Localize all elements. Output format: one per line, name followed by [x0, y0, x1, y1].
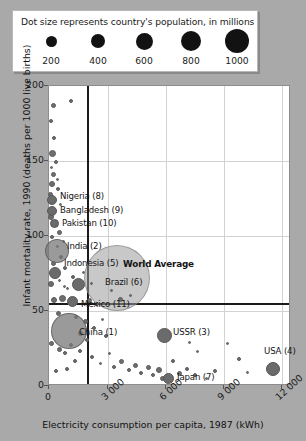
data-dot-other-13: [57, 230, 62, 235]
data-dot-other-43: [112, 365, 116, 369]
y-tick-mark-100: [44, 235, 48, 236]
data-dot-other-4: [54, 160, 58, 164]
gridline-y-50: [49, 311, 289, 312]
data-dot-other-72: [63, 285, 66, 288]
gridline-x-9000: [224, 86, 225, 384]
data-dot-other-50: [156, 367, 162, 373]
data-dot-other-6: [51, 172, 56, 177]
data-dot-other-61: [196, 350, 199, 353]
gridline-y-100: [49, 236, 289, 237]
data-dot-other-7: [56, 178, 59, 181]
y-tick-mark-150: [44, 160, 48, 161]
data-dot-other-39: [78, 349, 82, 353]
y-tick-mark-50: [44, 310, 48, 311]
point-label-brazil: Brazil (6): [105, 277, 142, 287]
data-dot-mexico: [67, 296, 78, 307]
legend-title: Dot size represents country's population…: [21, 16, 254, 27]
world-average-label: World Average: [123, 259, 194, 269]
legend-value-200: 200: [27, 55, 75, 66]
data-dot-other-20: [66, 287, 69, 290]
data-dot-other-46: [133, 363, 138, 368]
legend-value-600: 600: [120, 55, 168, 66]
y-tick-mark-200: [44, 85, 48, 86]
data-dot-other-27: [51, 297, 57, 303]
size-legend: Dot size represents country's population…: [12, 10, 258, 72]
legend-value-1000: 1000: [213, 55, 261, 66]
data-dot-other-67: [54, 369, 58, 373]
data-dot-other-37: [63, 351, 67, 355]
x-tick-mark-12000: [281, 385, 282, 389]
data-dot-other-42: [108, 352, 111, 355]
point-label-bangladesh: Bangladesh (9): [60, 205, 123, 215]
data-dot-other-26: [59, 295, 66, 302]
x-tick-mark-6000: [165, 385, 166, 389]
point-label-india: India (2): [67, 241, 102, 251]
data-dot-other-69: [69, 99, 73, 103]
data-dot-other-1: [49, 119, 53, 123]
data-dot-other-64: [85, 338, 89, 342]
gridline-x-3000: [108, 86, 109, 384]
data-dot-other-45: [127, 368, 131, 372]
data-dot-other-40: [90, 355, 94, 359]
data-dot-other-66: [65, 367, 69, 371]
legend-dot-800: [181, 31, 201, 51]
legend-item-200: 200: [27, 29, 75, 47]
plot-area: China (1)India (2)USSR (3)USA (4)Indones…: [48, 85, 290, 385]
chart-root: Dot size represents country's population…: [0, 0, 306, 441]
legend-item-1000: 1000: [213, 29, 261, 53]
x-tick-mark-3000: [107, 385, 108, 389]
legend-dot-400: [91, 34, 105, 48]
legend-value-400: 400: [74, 55, 122, 66]
data-dot-other-48: [146, 365, 151, 370]
point-label-usa: USA (4): [264, 346, 296, 356]
data-dot-other-2: [52, 136, 56, 140]
data-dot-nigeria: [47, 195, 57, 205]
legend-item-800: 800: [167, 29, 215, 51]
data-dot-other-52: [171, 359, 175, 363]
y-axis-title: Infant mortality rate, 1990 (deaths per …: [21, 26, 32, 326]
data-dot-brazil: [72, 278, 85, 291]
data-dot-indonesia: [49, 267, 61, 279]
data-dot-other-19: [48, 281, 54, 287]
y-tick-0: 0: [4, 379, 44, 390]
data-dot-other-22: [82, 271, 85, 274]
legend-dot-200: [46, 36, 57, 47]
data-dot-other-3: [49, 150, 56, 157]
gridline-y-150: [49, 161, 289, 162]
point-label-indonesia: Indonesia (5): [64, 258, 119, 268]
point-label-nigeria: Nigeria (8): [60, 191, 104, 201]
data-dot-other-34: [101, 318, 104, 321]
legend-item-600: 600: [120, 29, 168, 50]
data-dot-other-54: [185, 367, 189, 371]
data-dot-ussr: [157, 328, 172, 343]
data-dot-other-5: [50, 166, 53, 169]
data-dot-other-65: [73, 359, 77, 363]
data-dot-other-47: [139, 371, 143, 375]
x-tick-mark-9000: [223, 385, 224, 389]
legend-dot-600: [136, 33, 153, 50]
data-dot-other-60: [246, 371, 249, 374]
data-dot-other-44: [119, 359, 124, 364]
data-dot-other-0: [51, 103, 56, 108]
point-label-china: China (1): [79, 327, 117, 337]
data-dot-other-35: [49, 341, 54, 346]
point-label-ussr: USSR (3): [173, 327, 210, 337]
legend-value-800: 800: [167, 55, 215, 66]
data-dot-other-18: [58, 279, 61, 282]
data-dot-usa: [266, 362, 280, 376]
x-tick-0: 0: [45, 391, 51, 402]
data-dot-other-23: [90, 282, 93, 285]
point-label-mexico: Mexico (11): [81, 299, 130, 309]
gridline-x-12000: [282, 86, 283, 384]
point-label-pakistan: Pakistan (10): [62, 218, 116, 228]
legend-item-400: 400: [74, 29, 122, 48]
data-dot-other-62: [188, 341, 191, 344]
data-dot-bangladesh: [47, 206, 57, 216]
data-dot-other-59: [237, 357, 241, 361]
data-dot-other-49: [151, 373, 155, 377]
legend-dot-1000: [225, 29, 249, 53]
data-dot-other-24: [110, 289, 113, 292]
data-dot-other-41: [99, 362, 102, 365]
data-dot-other-73: [129, 294, 132, 297]
data-dot-pakistan: [50, 219, 59, 228]
